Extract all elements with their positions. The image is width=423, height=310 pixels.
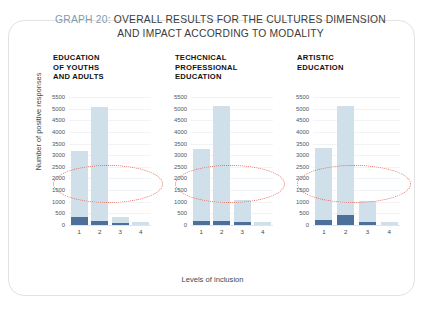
x-axis-tick-label: 2 bbox=[213, 228, 230, 235]
bar bbox=[254, 222, 271, 225]
y-axis-tick-label: 3000 bbox=[174, 152, 187, 158]
x-axis-tick-label: 3 bbox=[112, 228, 129, 235]
x-axis-title: Levels of inclusion bbox=[9, 275, 416, 284]
y-axis-tick-label: 4500 bbox=[174, 117, 187, 123]
plot-area: 0500100015002000250030003500400045005000… bbox=[41, 97, 151, 225]
y-axis-tick-label: 2500 bbox=[174, 164, 187, 170]
bar-body bbox=[213, 106, 230, 225]
x-axis-tick-label: 2 bbox=[337, 228, 354, 235]
y-axis-tick-label: 5000 bbox=[52, 106, 65, 112]
panel-title-line: ARTISTIC bbox=[297, 53, 344, 63]
y-axis-tick-label: 3000 bbox=[296, 152, 309, 158]
bar bbox=[234, 200, 251, 225]
y-axis-tick-label: 4000 bbox=[296, 129, 309, 135]
y-axis-tick-label: 2000 bbox=[296, 175, 309, 181]
bar-base-segment bbox=[193, 221, 210, 225]
y-axis-tick-labels: 0500100015002000250030003500400045005000… bbox=[285, 97, 311, 225]
bar bbox=[213, 106, 230, 225]
panel-artistic-education: ARTISTIC EDUCATION 050010001500200025003… bbox=[285, 53, 400, 271]
bar-base-segment bbox=[315, 220, 332, 225]
panel-title: ARTISTIC EDUCATION bbox=[297, 53, 344, 72]
y-axis-tick-label: 3500 bbox=[296, 141, 309, 147]
bar bbox=[315, 148, 332, 225]
y-axis-tick-label: 1500 bbox=[174, 187, 187, 193]
bar bbox=[71, 151, 88, 225]
y-axis-tick-label: 0 bbox=[184, 222, 187, 228]
x-axis-tick-label: 4 bbox=[381, 228, 398, 235]
x-axis-tick-label: 4 bbox=[254, 228, 271, 235]
panel-title-line: PROFESSIONAL bbox=[175, 63, 238, 73]
panel-title: TECHCNICAL PROFESSIONAL EDUCATION bbox=[175, 53, 238, 82]
y-axis-tick-label: 500 bbox=[55, 210, 65, 216]
bar-body bbox=[71, 151, 88, 225]
y-axis-tick-label: 1000 bbox=[296, 199, 309, 205]
y-axis-tick-label: 1000 bbox=[52, 199, 65, 205]
y-axis-tick-labels: 0500100015002000250030003500400045005000… bbox=[163, 97, 189, 225]
panel-title-line: OF YOUTHS bbox=[53, 63, 104, 73]
y-axis-tick-label: 5500 bbox=[296, 94, 309, 100]
y-axis-tick-label: 1500 bbox=[296, 187, 309, 193]
bar-body bbox=[193, 149, 210, 225]
bar-body bbox=[91, 107, 108, 225]
panel-group: EDUCATION OF YOUTHS AND ADULTS 050010001… bbox=[23, 53, 402, 271]
y-axis-tick-label: 5500 bbox=[174, 94, 187, 100]
figure-title-line1: OVERALL RESULTS FOR THE CULTURES DIMENSI… bbox=[111, 14, 386, 25]
y-axis-tick-label: 5000 bbox=[296, 106, 309, 112]
x-axis-tick-label: 2 bbox=[91, 228, 108, 235]
y-axis-tick-label: 1500 bbox=[52, 187, 65, 193]
bar-base-segment bbox=[112, 223, 129, 225]
x-axis-tick-label: 1 bbox=[193, 228, 210, 235]
x-axis-tick-label: 1 bbox=[71, 228, 88, 235]
y-axis-tick-label: 0 bbox=[62, 222, 65, 228]
plot-area: 0500100015002000250030003500400045005000… bbox=[163, 97, 273, 225]
figure-card: GRAPH 20: OVERALL RESULTS FOR THE CULTUR… bbox=[8, 20, 415, 296]
bar-body bbox=[315, 148, 332, 225]
bar-base-segment bbox=[359, 222, 376, 225]
plot-area: 0500100015002000250030003500400045005000… bbox=[285, 97, 400, 225]
bar-base-segment bbox=[213, 221, 230, 225]
bar-group: 1234 bbox=[313, 97, 400, 225]
bar bbox=[132, 222, 149, 225]
bar bbox=[337, 106, 354, 225]
panel-title-line: TECHCNICAL bbox=[175, 53, 238, 63]
bar bbox=[112, 217, 129, 225]
bar-body bbox=[132, 222, 149, 225]
bar bbox=[381, 222, 398, 225]
y-axis-tick-label: 2500 bbox=[296, 164, 309, 170]
bar-base-segment bbox=[71, 217, 88, 225]
bar-base-segment bbox=[234, 222, 251, 225]
bar-body bbox=[337, 106, 354, 225]
x-axis-tick-label: 3 bbox=[359, 228, 376, 235]
y-axis-tick-label: 4000 bbox=[52, 129, 65, 135]
axis-baseline bbox=[69, 225, 151, 226]
panel-title-line: EDUCATION bbox=[175, 72, 238, 82]
y-axis-tick-label: 5000 bbox=[174, 106, 187, 112]
panel-techcnical-professional-education: TECHCNICAL PROFESSIONAL EDUCATION 050010… bbox=[163, 53, 273, 271]
bar bbox=[193, 149, 210, 225]
panel-title-line: EDUCATION bbox=[297, 63, 344, 73]
panel-title: EDUCATION OF YOUTHS AND ADULTS bbox=[53, 53, 104, 82]
y-axis-tick-label: 4500 bbox=[52, 117, 65, 123]
y-axis-tick-label: 3500 bbox=[52, 141, 65, 147]
axis-baseline bbox=[191, 225, 273, 226]
bar-base-segment bbox=[91, 221, 108, 225]
y-axis-tick-label: 2500 bbox=[52, 164, 65, 170]
figure-title: GRAPH 20: OVERALL RESULTS FOR THE CULTUR… bbox=[9, 13, 423, 41]
graph-number-label: GRAPH 20: bbox=[55, 14, 111, 25]
x-axis-tick-label: 3 bbox=[234, 228, 251, 235]
x-axis-tick-label: 1 bbox=[315, 228, 332, 235]
figure-title-line2: AND IMPACT ACCORDING TO MODALITY bbox=[9, 27, 423, 41]
y-axis-tick-label: 500 bbox=[177, 210, 187, 216]
bar-body bbox=[254, 222, 271, 225]
y-axis-tick-label: 4000 bbox=[174, 129, 187, 135]
panel-education-of-youths-and-adults: EDUCATION OF YOUTHS AND ADULTS 050010001… bbox=[41, 53, 151, 271]
y-axis-tick-label: 1000 bbox=[174, 199, 187, 205]
y-axis-tick-label: 2000 bbox=[52, 175, 65, 181]
y-axis-tick-label: 0 bbox=[306, 222, 309, 228]
bar-group: 1234 bbox=[191, 97, 273, 225]
x-axis-tick-label: 4 bbox=[132, 228, 149, 235]
bar-body bbox=[381, 222, 398, 225]
y-axis-tick-label: 2000 bbox=[174, 175, 187, 181]
y-axis-tick-label: 5500 bbox=[52, 94, 65, 100]
panel-title-line: EDUCATION bbox=[53, 53, 104, 63]
